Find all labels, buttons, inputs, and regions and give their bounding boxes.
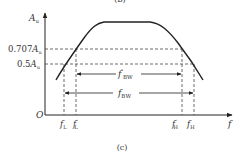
fbw-label: fBW	[117, 88, 131, 99]
response-curve	[56, 22, 203, 80]
frequency-response-diagram: (b) f′BW fBW Au 0.707Au 0.5Au O f fL f′L…	[0, 0, 245, 157]
y-axis-label: Au	[28, 13, 40, 24]
level-0707-label: 0.707Au	[8, 44, 42, 55]
level-05-label: 0.5Au	[17, 59, 41, 70]
figure-caption: (c)	[117, 143, 128, 152]
fh-prime-label: f′H	[171, 118, 179, 130]
x-axis-label: f	[227, 119, 233, 129]
origin-label: O	[36, 110, 44, 120]
fbw-prime-label: f′BW	[117, 68, 133, 80]
top-label-partial: (b)	[114, 0, 125, 4]
fl-label: fL	[59, 119, 67, 130]
fl-prime-label: f′L	[72, 118, 79, 130]
fh-label: fH	[186, 119, 195, 130]
